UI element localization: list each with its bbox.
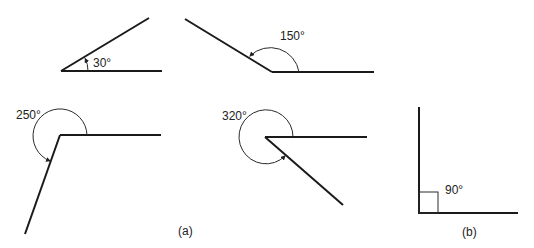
angle-250-figure: 250° xyxy=(16,108,161,234)
angle-30-figure: 30° xyxy=(61,18,162,71)
angle-150-rotated-arm xyxy=(185,19,272,72)
angle-150-arc-arrow xyxy=(250,48,299,72)
angle-250-rotated-arm xyxy=(25,135,60,234)
right-angle-marker-icon xyxy=(419,192,438,213)
angle-150-label: 150° xyxy=(280,29,305,43)
part-b-caption: (b) xyxy=(462,225,477,239)
angle-30-arc-arrow xyxy=(85,59,88,71)
part-a-caption: (a) xyxy=(178,224,193,238)
angle-30-label: 30° xyxy=(93,56,111,70)
angle-320-figure: 320° xyxy=(222,109,367,205)
angle-150-figure: 150° xyxy=(185,19,374,72)
angle-90-label: 90° xyxy=(445,183,463,197)
angle-diagram: 30° 150° 250° 320° (a) 90° (b) xyxy=(0,0,534,248)
angle-250-label: 250° xyxy=(16,108,41,122)
angle-90-figure: 90° xyxy=(418,107,518,214)
angle-320-label: 320° xyxy=(222,109,247,123)
angle-320-rotated-arm xyxy=(265,137,343,205)
